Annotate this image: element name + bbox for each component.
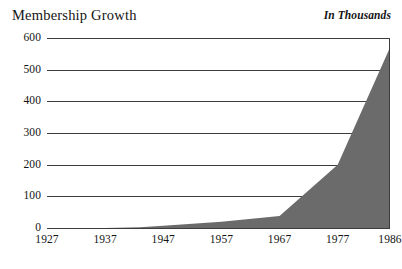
membership-growth-chart: Membership Growth In Thousands 600500400… [0,0,402,269]
x-tick-label-1927: 1927 [17,234,77,246]
plot-area [47,38,390,228]
area-series-path [47,48,390,229]
axis-right-spine [389,38,390,228]
x-tick-label-1967: 1967 [250,234,310,246]
x-tick-label-1957: 1957 [191,234,251,246]
y-tick-label-500: 500 [1,64,41,76]
y-tick-label-600: 600 [1,32,41,44]
y-tick-label-200: 200 [1,159,41,171]
chart-title: Membership Growth [12,7,137,24]
x-tick-label-1937: 1937 [75,234,135,246]
x-tick-label-1977: 1977 [308,234,368,246]
gridline-0 [47,228,390,229]
x-tick-label-1947: 1947 [133,234,193,246]
area-series [47,38,390,228]
y-tick-label-100: 100 [1,191,41,203]
y-tick-label-300: 300 [1,127,41,139]
y-tick-label-400: 400 [1,96,41,108]
chart-units-note: In Thousands [324,9,391,21]
x-tick-label-1986: 1986 [360,234,402,246]
